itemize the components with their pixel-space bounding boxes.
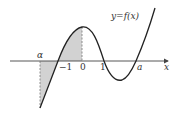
tick-label-alpha: α [37,50,43,60]
function-label: y=f(x) [110,11,140,21]
function-curve [40,8,155,108]
graph-diagram: y=f(x) x α −1 0 1 a [0,0,174,113]
shaded-region-neg-one-to-zero [58,27,82,61]
tick-label-zero: 0 [80,62,86,72]
tick-label-a: a [137,62,142,72]
x-axis-label: x [164,62,169,72]
tick-label-one: 1 [100,62,106,72]
tick-label-neg-one: −1 [59,62,72,72]
